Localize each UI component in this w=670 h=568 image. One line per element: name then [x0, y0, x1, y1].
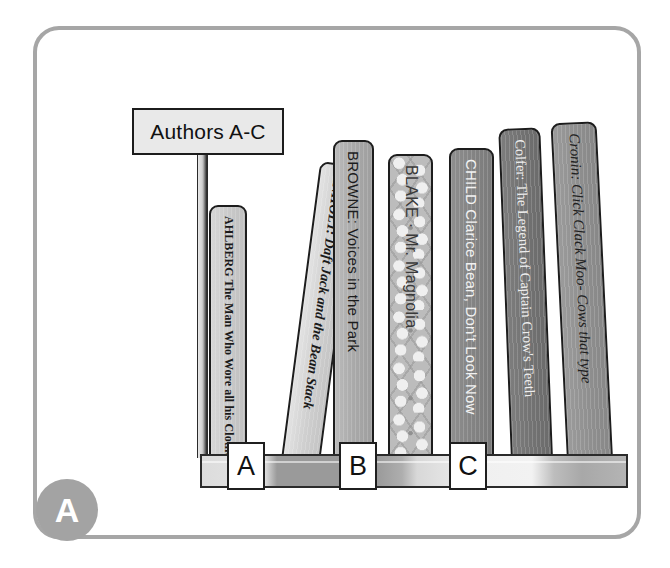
shelf-tag-b[interactable]: B	[339, 442, 377, 490]
spine-label-colfer: Colfer: The Legend of Captain Crow's Tee…	[511, 139, 538, 397]
shelf-tag-b-label: B	[349, 451, 367, 482]
spine-label-blake: BLAKE · Mr. Magnolia	[402, 165, 420, 328]
book-spine-child[interactable]: CHILD Clarice Bean, Don't Look Now	[449, 148, 494, 460]
spine-text-wrap: AHLBERG The Man Who Wore all his Clothes	[211, 216, 245, 453]
spine-text-wrap: BROWNE: Voices in the Park	[335, 151, 372, 453]
spine-label-cronin: Cronin: Click Clack Moo- Cows that type	[566, 133, 595, 384]
shelf-tag-a-label: A	[237, 451, 255, 482]
panel-badge-letter: A	[55, 493, 80, 527]
book-spine-cronin[interactable]: Cronin: Click Clack Moo- Cows that type	[551, 121, 613, 461]
shelf-highlight	[202, 461, 626, 463]
spine-text-wrap: Cronin: Click Clack Moo- Cows that type	[553, 132, 611, 454]
book-spine-blake[interactable]: BLAKE · Mr. Magnolia	[388, 154, 433, 460]
shelf-scene: AHLBERG The Man Who Wore all his Clothes…	[37, 30, 637, 535]
shelf-tag-c-label: C	[458, 451, 478, 482]
spine-text-wrap: Colfer: The Legend of Captain Crow's Tee…	[501, 139, 551, 454]
shelf-tag-a[interactable]: A	[227, 442, 265, 490]
spine-text-wrap: BLAKE · Mr. Magnolia	[390, 165, 431, 453]
authors-sign-text: Authors A-C	[150, 120, 265, 144]
panel-badge-a: A	[36, 479, 98, 541]
book-spine-ahlberg[interactable]: AHLBERG The Man Who Wore all his Clothes	[209, 205, 247, 460]
sign-post	[197, 138, 208, 458]
spine-label-browne: BROWNE: Voices in the Park	[345, 151, 362, 352]
illustration-stage: AHLBERG The Man Who Wore all his Clothes…	[0, 0, 670, 568]
spine-label-child: CHILD Clarice Bean, Don't Look Now	[463, 159, 480, 415]
book-spine-browne[interactable]: BROWNE: Voices in the Park	[333, 140, 374, 460]
spine-text-wrap: CHILD Clarice Bean, Don't Look Now	[451, 159, 492, 453]
shelf-tag-c[interactable]: C	[449, 442, 487, 490]
authors-sign-board: Authors A-C	[132, 108, 284, 155]
spine-label-ahlberg: AHLBERG The Man Who Wore all his Clothes	[221, 216, 236, 460]
book-spine-colfer[interactable]: Colfer: The Legend of Captain Crow's Tee…	[498, 127, 553, 460]
